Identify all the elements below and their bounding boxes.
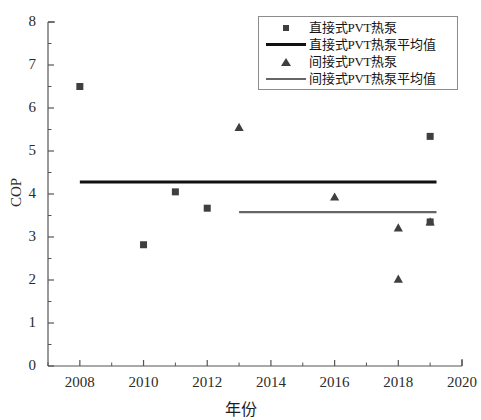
legend-label: 直接式PVT热泵 [309,19,397,36]
x-tick-label: 2010 [114,374,174,391]
y-tick-label: 5 [0,142,36,159]
y-tick-label: 7 [0,56,36,73]
x-tick-label: 2012 [177,374,237,391]
y-tick-label: 3 [0,228,36,245]
x-tick-label: 2014 [241,374,301,391]
legend-label: 直接式PVT热泵平均值 [309,36,435,53]
legend-item-direct-pvt-average: 直接式PVT热泵平均值 [263,36,453,53]
triangle-marker-icon [263,58,309,66]
x-tick-label: 2020 [432,374,481,391]
square-marker-icon [263,25,309,31]
chart-figure: 012345678 2008201020122014201620182020 C… [0,0,481,420]
y-tick-label: 2 [0,271,36,288]
x-tick-label: 2018 [368,374,428,391]
gray-line-icon [263,78,309,80]
x-tick-label: 2016 [305,374,365,391]
x-tick-label: 2008 [50,374,110,391]
legend-label: 间接式PVT热泵 [309,53,397,70]
legend-item-direct-pvt: 直接式PVT热泵 [263,19,453,36]
dark-line-icon [263,43,309,46]
legend-label: 间接式PVT热泵平均值 [309,70,435,87]
data-series [76,83,436,283]
y-axis-title: COP [8,163,25,223]
y-tick-label: 6 [0,99,36,116]
legend-item-indirect-pvt: 间接式PVT热泵 [263,53,453,70]
legend-item-indirect-pvt-average: 间接式PVT热泵平均值 [263,70,453,87]
y-tick-label: 0 [0,357,36,374]
y-tick-label: 1 [0,314,36,331]
chart-legend: 直接式PVT热泵 直接式PVT热泵平均值 间接式PVT热泵 间接式PVT热泵平均… [258,16,458,90]
y-tick-label: 8 [0,13,36,30]
x-axis-title: 年份 [0,396,481,420]
